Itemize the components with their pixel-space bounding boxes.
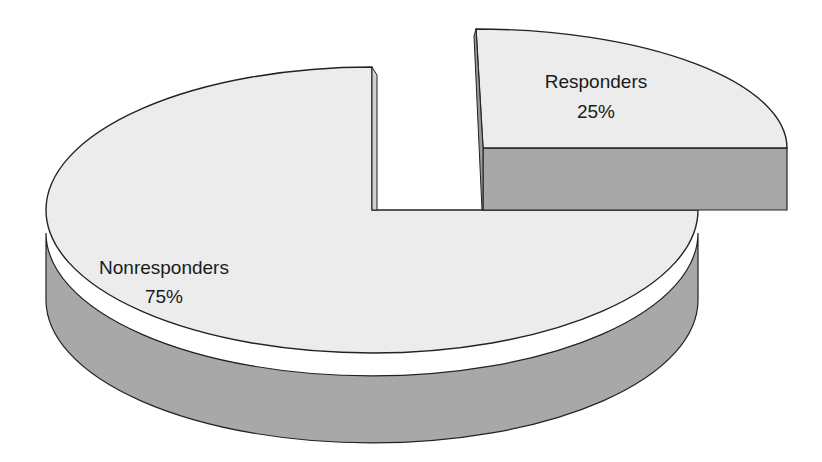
label-nonresponders-name: Nonresponders [99, 257, 229, 278]
slice-responders[interactable] [474, 29, 787, 210]
label-responders-percent: 25% [577, 101, 615, 122]
slice-responders-side [483, 148, 787, 210]
pie-chart: Responders 25% Nonresponders 75% [0, 0, 822, 462]
label-nonresponders-percent: 75% [145, 286, 183, 307]
slice-nonresponders-cut-wall [372, 67, 377, 210]
label-responders-name: Responders [545, 71, 647, 92]
